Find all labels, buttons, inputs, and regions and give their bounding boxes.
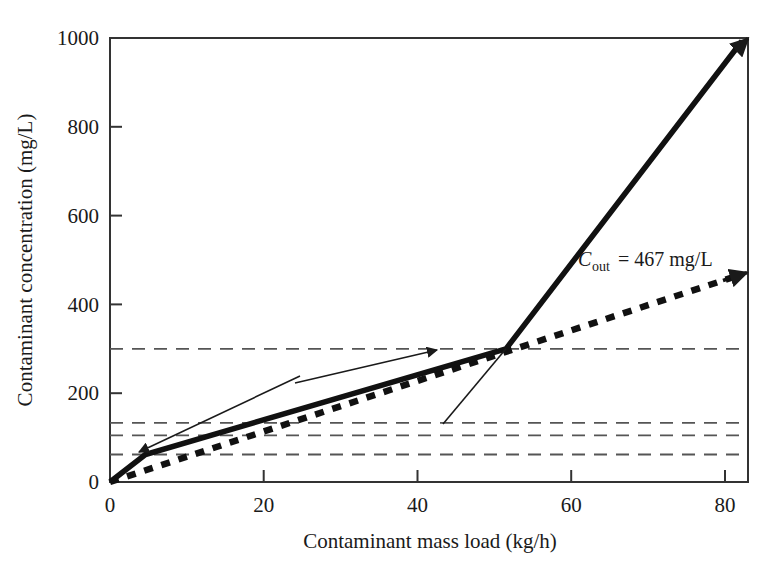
x-axis-title: Contaminant mass load (kg/h): [303, 529, 557, 553]
cout-symbol: C: [578, 248, 592, 270]
x-tick-label-0: 0: [105, 493, 116, 517]
y-tick-label-1000: 1000: [57, 26, 99, 50]
y-tick-label-400: 400: [68, 293, 100, 317]
cout-subscript: out: [592, 259, 610, 274]
x-tick-label-40: 40: [407, 493, 428, 517]
x-tick-label-80: 80: [715, 493, 736, 517]
contaminant-composite-curve-chart: 1000 800 600 400 200 0 0 20 40 60 80 Con…: [0, 0, 784, 570]
y-tick-label-0: 0: [89, 470, 100, 494]
x-tick-label-20: 20: [253, 493, 274, 517]
y-axis-title: Contaminant concentration (mg/L): [13, 114, 37, 407]
y-tick-label-800: 800: [68, 115, 100, 139]
chart-figure: 1000 800 600 400 200 0 0 20 40 60 80 Con…: [0, 0, 784, 570]
cout-value-text: = 467 mg/L: [618, 248, 713, 271]
y-tick-label-600: 600: [68, 204, 100, 228]
x-tick-label-60: 60: [561, 493, 582, 517]
y-tick-label-200: 200: [68, 381, 100, 405]
